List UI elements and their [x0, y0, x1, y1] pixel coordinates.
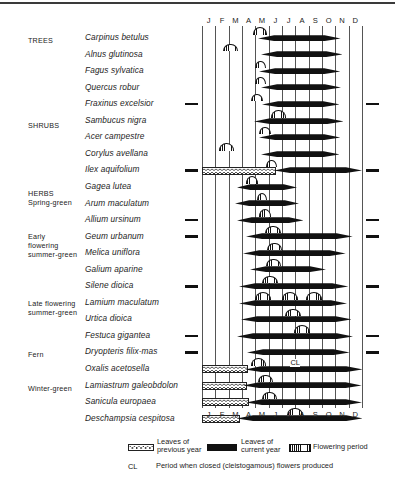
flowering-hump-0: [262, 276, 278, 283]
month-label-a-3: A: [242, 16, 256, 25]
month-label-n-10: N: [335, 410, 349, 419]
species-label-geum-urbanum: Geum urbanum: [85, 231, 144, 241]
month-label-f-1: F: [215, 16, 229, 25]
row-tick-right: [366, 335, 379, 338]
month-label-s-8: S: [308, 16, 322, 25]
group-herbs-spring: HERBSSpring-green: [28, 189, 72, 207]
species-label-carpinus-betulus: Carpinus betulus: [85, 32, 149, 42]
group-label-line: summer-green: [28, 308, 77, 317]
month-label-a-7: A: [295, 16, 309, 25]
cl-marker: CL: [290, 359, 300, 367]
row-tick-right: [366, 103, 379, 106]
current-year-bar: [274, 166, 362, 175]
month-label-n-10: N: [335, 16, 349, 25]
month-label-j-5: J: [268, 16, 282, 25]
current-year-bar: [254, 117, 343, 126]
month-label-o-9: O: [322, 410, 336, 419]
flowering-hump-0: [265, 226, 281, 233]
species-label-fraxinus-excelsior: Fraxinus excelsior: [85, 98, 154, 108]
month-label-m-2: M: [228, 16, 242, 25]
current-year-bar: [241, 315, 352, 324]
row-tick-left: [185, 235, 198, 238]
current-year-bar: [237, 216, 304, 225]
row-tick-left: [185, 169, 198, 172]
flowering-hump-0: [251, 94, 263, 101]
group-label-line: Winter-green: [28, 384, 72, 393]
flowering-hump-0: [262, 392, 277, 399]
month-label-f-1: F: [215, 410, 229, 419]
species-label-galium-aparine: Galium aparine: [85, 264, 143, 274]
month-label-o-9: O: [322, 16, 336, 25]
group-label-line: summer-green: [28, 250, 77, 259]
month-label-j-5: J: [268, 410, 282, 419]
current-year-bar: [261, 150, 340, 159]
group-label-line: HERBS: [28, 189, 72, 198]
month-label-j-0: J: [202, 16, 216, 25]
species-label-ilex-aquifolium: Ilex aquifolium: [85, 164, 140, 174]
species-label-acer-campestre: Acer campestre: [85, 131, 145, 141]
group-shrubs: SHRUBS: [28, 121, 59, 130]
flowering-hump-0: [251, 358, 266, 365]
flowering-hump-0: [259, 127, 271, 134]
legend-cl-text: Period when closed (cleistogamous) flowe…: [156, 462, 333, 470]
species-label-urtica-dioica: Urtica dioica: [85, 313, 132, 323]
current-year-bar: [259, 67, 340, 76]
current-year-bar: [245, 365, 362, 374]
current-year-bar: [243, 249, 346, 258]
flowering-hump-1: [282, 292, 298, 299]
group-winter-green: Winter-green: [28, 384, 72, 393]
species-label-arum-maculatum: Arum maculatum: [85, 198, 149, 208]
group-label-line: Spring-green: [28, 198, 72, 207]
flowering-hump-0: [255, 292, 271, 299]
species-label-deschampsia-cespitosa: Deschampsia cespitosa: [85, 413, 175, 423]
row-tick-right: [366, 219, 379, 222]
flowering-hump-0: [285, 309, 301, 316]
row-tick-left: [185, 103, 198, 106]
previous-year-bar: [202, 382, 247, 390]
flowering-hump-2: [306, 292, 322, 299]
flowering-hump-0: [258, 375, 273, 382]
species-label-silene-dioica: Silene dioica: [85, 280, 133, 290]
flowering-hump-0: [246, 176, 258, 183]
current-year-bar: [258, 34, 341, 43]
legend-swatch-previous-year: [128, 444, 154, 451]
species-label-sanicula-europaea: Sanicula europaea: [85, 396, 156, 406]
previous-year-bar: [202, 398, 249, 406]
row-tick-right: [366, 285, 379, 288]
group-label-line: Early: [28, 232, 77, 241]
species-label-lamium-maculatum: Lamium maculatum: [85, 297, 159, 307]
top-rule: [0, 2, 395, 4]
month-label-j-6: J: [282, 410, 296, 419]
group-label-line: Late flowering: [28, 299, 77, 308]
species-label-melica-uniflora: Melica uniflora: [85, 247, 140, 257]
group-label-line: SHRUBS: [28, 121, 59, 130]
month-label-m-2: M: [228, 410, 242, 419]
month-axis-bottom: JFMAMJJASOND: [202, 410, 362, 422]
current-year-bar: [261, 50, 342, 59]
species-label-oxalis-acetosella: Oxalis acetosella: [85, 363, 149, 373]
current-year-bar: [246, 398, 362, 407]
flowering-hump-0: [255, 61, 266, 68]
phenology-figure: TREESSHRUBSHERBSSpring-greenEarlyfloweri…: [0, 0, 395, 486]
legend-label-previous-year: Leaves of previous year: [157, 438, 201, 455]
month-label-m-4: M: [255, 410, 269, 419]
row-tick-right: [366, 351, 379, 354]
flowering-hump-0: [253, 27, 268, 34]
month-label-s-8: S: [308, 410, 322, 419]
month-label-a-7: A: [295, 410, 309, 419]
group-fern: Fern: [28, 350, 44, 359]
legend-label-current-year: Leaves of current year: [241, 438, 280, 455]
current-year-bar: [243, 381, 362, 390]
flowering-hump-0: [223, 44, 238, 51]
row-tick-left: [185, 335, 198, 338]
group-label-line: Fern: [28, 350, 44, 359]
flowering-hump-0: [219, 143, 234, 150]
current-year-bar: [247, 348, 350, 357]
legend: Leaves of previous year Leaves of curren…: [0, 437, 395, 483]
row-tick-right: [366, 235, 379, 238]
species-label-quercus-robur: Quercus robur: [85, 82, 139, 92]
flowering-hump-0: [259, 209, 271, 216]
flowering-hump-0: [271, 110, 286, 117]
species-label-corylus-avellana: Corylus avellana: [85, 148, 148, 158]
month-label-j-0: J: [202, 410, 216, 419]
